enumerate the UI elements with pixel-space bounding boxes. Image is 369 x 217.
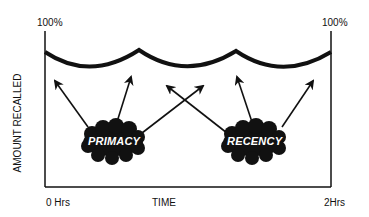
arrow-icon (55, 81, 88, 127)
y-axis-label: AMOUNT RECALLED (13, 53, 23, 193)
arrow-icon (117, 77, 131, 122)
diagram-canvas: 100% 100% AMOUNT RECALLED 0 Hrs TIME 2Hr… (0, 0, 369, 217)
x-end-label: 2Hrs (324, 198, 345, 208)
primacy-label: PRIMACY (88, 136, 140, 147)
y-max-left-label: 100% (37, 18, 63, 28)
recency-label: RECENCY (227, 136, 282, 147)
axes (45, 31, 331, 187)
recall-curve (45, 50, 331, 67)
arrow-icon (237, 77, 252, 122)
arrow-icon (167, 86, 227, 133)
x-start-label: 0 Hrs (46, 198, 70, 208)
diagram-graphics (0, 0, 369, 217)
y-max-right-label: 100% (322, 18, 348, 28)
x-axis-label: TIME (152, 198, 176, 208)
arrow-icon (282, 81, 313, 127)
arrow-icon (142, 86, 203, 133)
